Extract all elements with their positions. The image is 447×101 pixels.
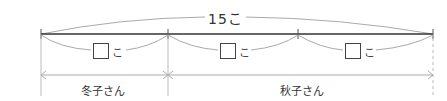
segment-2-unit: こ [239,44,250,60]
total-brace-left [41,17,205,34]
total-brace-right [245,17,433,34]
segment-3-brace-left [298,35,343,50]
segment-1-answer-box[interactable] [93,43,109,59]
segment-2-answer-box[interactable] [220,43,236,59]
segment-3-unit: こ [364,44,375,60]
person-label-akiko: 秋子さん [280,82,324,98]
total-label: 15こ [205,8,246,28]
segment-3-answer-box[interactable] [345,43,361,59]
person-label-fuyuko: 冬子さん [81,82,125,98]
segment-3-brace-right [376,35,433,50]
segment-1-brace-left [41,35,91,50]
segment-1-brace-right [126,35,168,50]
segment-2-brace-left [168,35,218,50]
segment-1-unit: こ [112,44,123,60]
tape-diagram: 15こ こ こ こ 冬子さん 秋子さん [0,0,447,101]
segment-2-brace-right [251,35,298,50]
